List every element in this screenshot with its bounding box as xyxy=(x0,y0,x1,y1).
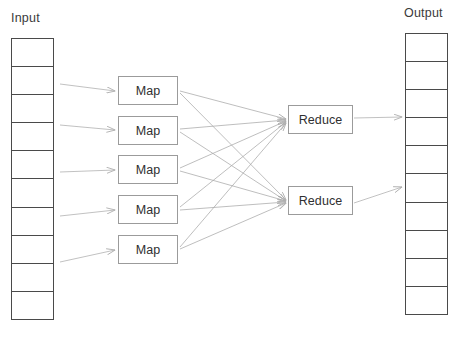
edge-map2-reduce2 xyxy=(180,132,286,201)
edge-map5-reduce1 xyxy=(180,123,286,247)
map-node-2[interactable]: Map xyxy=(118,116,178,145)
input-cell xyxy=(11,235,54,263)
arrow-reduce1-to-output xyxy=(354,117,402,118)
map-node-3[interactable]: Map xyxy=(118,155,178,184)
input-cell xyxy=(11,291,54,320)
edge-map3-reduce1 xyxy=(180,121,286,168)
input-cell xyxy=(11,207,54,235)
input-stack xyxy=(11,38,54,320)
output-cell xyxy=(405,202,448,230)
reduce-node-2[interactable]: Reduce xyxy=(288,186,353,215)
reduce-node-1[interactable]: Reduce xyxy=(288,105,353,134)
input-to-map-arrows xyxy=(60,84,115,262)
map-node-5[interactable]: Map xyxy=(118,235,178,264)
output-cell xyxy=(405,61,448,89)
output-cell xyxy=(405,33,448,61)
input-cell xyxy=(11,178,54,206)
output-cell xyxy=(405,117,448,145)
edge-map4-reduce1 xyxy=(180,122,286,207)
edge-map1-reduce1 xyxy=(180,91,286,119)
output-cell xyxy=(405,230,448,258)
output-cell xyxy=(405,89,448,117)
input-cell xyxy=(11,150,54,178)
output-cell xyxy=(405,258,448,286)
arrow-input-to-map-4 xyxy=(60,210,115,216)
map-node-1[interactable]: Map xyxy=(118,76,178,105)
output-cell xyxy=(405,145,448,173)
map-node-4[interactable]: Map xyxy=(118,195,178,224)
connector-layer xyxy=(0,0,462,340)
input-cell xyxy=(11,263,54,291)
input-label: Input xyxy=(11,11,40,25)
edge-map4-reduce2 xyxy=(180,202,286,210)
output-stack xyxy=(405,33,448,315)
input-cell xyxy=(11,38,54,66)
arrow-reduce2-to-output xyxy=(354,187,402,203)
output-cell xyxy=(405,286,448,315)
mapreduce-diagram: Input Map Map Map Map Map Reduce Reduce … xyxy=(0,0,462,340)
arrow-input-to-map-2 xyxy=(60,125,115,130)
arrow-input-to-map-5 xyxy=(60,250,115,262)
input-cell xyxy=(11,122,54,150)
input-cell xyxy=(11,94,54,122)
map-to-reduce-mesh xyxy=(180,91,286,249)
input-cell xyxy=(11,66,54,94)
output-cell xyxy=(405,173,448,201)
arrow-input-to-map-1 xyxy=(60,84,115,91)
output-label: Output xyxy=(404,6,443,20)
edge-map3-reduce2 xyxy=(180,171,286,201)
edge-map1-reduce2 xyxy=(180,93,286,200)
reduce-to-output-arrows xyxy=(354,117,402,203)
edge-map5-reduce2 xyxy=(180,203,286,249)
arrow-input-to-map-3 xyxy=(60,170,115,172)
